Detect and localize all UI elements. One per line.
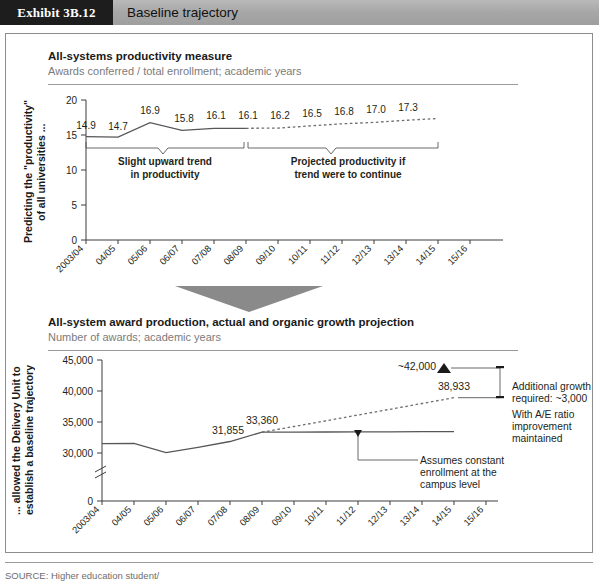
enrollment-marker-icon	[354, 430, 362, 437]
x-tick: 06/07	[173, 504, 197, 528]
downward-arrow-icon	[175, 286, 323, 312]
productivity-data-labels: 14.9 14.7 16.9 15.8 16.1 16.1 16.2 16.5 …	[76, 102, 418, 132]
bottom-panel-side-caption: ... allowed the Delivery Unit to establi…	[10, 358, 36, 523]
annotation-constant-enrollment: Assumes constant enrollment at the campu…	[420, 455, 520, 491]
bracket-tick	[496, 396, 504, 398]
x-tick: 04/05	[93, 243, 117, 267]
top-panel-rule	[48, 84, 518, 85]
x-tick: 2003/04	[70, 504, 102, 536]
x-tick: 09/10	[253, 243, 277, 267]
annotation-ae-ratio: With A/E ratio improvement maintained	[512, 409, 598, 445]
award-production-chart-svg: 45,000 40,000 35,000 30,000 0 31,855 33,…	[48, 356, 548, 546]
bottom-panel-rule	[48, 350, 518, 351]
target-marker-triangle-icon	[437, 363, 451, 373]
top-panel-subtitle: Awards conferred / total enrollment; aca…	[48, 64, 518, 78]
exhibit-header: Exhibit 3B.12 Baseline trajectory	[0, 0, 599, 25]
y-tick-bottom-30000: 30,000	[62, 448, 93, 459]
data-label: 38,933	[438, 380, 470, 392]
x-tick: 06/07	[157, 243, 181, 267]
top-panel-side-caption: Predicting the "productivity" of all uni…	[22, 92, 48, 252]
bottom-panel-heading: All-system award production, actual and …	[48, 315, 518, 344]
x-tick: 12/13	[349, 243, 373, 267]
data-label: 17.0	[366, 104, 386, 115]
data-label: 14.7	[108, 121, 128, 132]
x-tick: 08/09	[237, 504, 261, 528]
x-tick: 2003/04	[54, 243, 86, 275]
data-label: 16.2	[270, 110, 290, 121]
y-tick-top-20: 20	[66, 95, 78, 106]
series-baseline-awards	[102, 432, 454, 453]
x-tick: 07/08	[189, 243, 213, 267]
x-tick-labels-top: 2003/04 04/05 05/06 06/07 07/08 08/09 09…	[54, 243, 470, 275]
top-annotation-right: Projected productivity if trend were to …	[268, 156, 428, 181]
x-tick: 13/14	[381, 243, 405, 267]
exhibit-title: Baseline trajectory	[113, 0, 238, 25]
data-label: 16.9	[140, 105, 160, 116]
x-axis-top	[86, 240, 503, 244]
x-tick: 05/06	[141, 504, 165, 528]
x-tick: 04/05	[109, 504, 133, 528]
award-production-chart: 45,000 40,000 35,000 30,000 0 31,855 33,…	[48, 356, 548, 546]
x-tick: 14/15	[429, 504, 453, 528]
top-panel-heading: All-systems productivity measure Awards …	[48, 49, 518, 78]
annotation-bracket-right	[248, 142, 438, 154]
x-tick: 05/06	[125, 243, 149, 267]
x-tick: 11/12	[334, 504, 358, 528]
x-tick: 12/13	[365, 504, 389, 528]
data-label: 16.5	[302, 108, 322, 119]
data-label: 15.8	[174, 113, 194, 124]
y-tick-bottom-45000: 45,000	[62, 355, 93, 366]
productivity-chart: 20 15 10 5 0 14.9 14.7 16.9 15.8 16.1 16…	[48, 92, 518, 287]
x-tick: 11/12	[318, 243, 342, 267]
y-axis-bottom: 45,000 40,000 35,000 30,000 0	[62, 355, 106, 507]
x-tick: 13/14	[397, 504, 421, 528]
top-panel-title: All-systems productivity measure	[48, 49, 518, 63]
x-tick: 15/16	[445, 243, 469, 267]
y-tick-bottom-40000: 40,000	[62, 386, 93, 397]
data-label: 17.3	[398, 102, 418, 113]
annotation-bracket-left	[86, 142, 244, 154]
x-tick: 15/16	[461, 504, 485, 528]
x-axis-bottom	[102, 501, 498, 505]
productivity-chart-svg: 20 15 10 5 0 14.9 14.7 16.9 15.8 16.1 16…	[48, 92, 518, 287]
y-tick-top-5: 5	[71, 200, 77, 211]
data-label-target: ~42,000	[398, 360, 436, 372]
x-tick: 14/15	[413, 243, 437, 267]
y-axis-top: 20 15 10 5 0	[66, 95, 86, 246]
series-organic-growth	[262, 398, 454, 433]
data-label: 31,855	[212, 424, 244, 436]
bracket-tick	[496, 366, 504, 368]
bottom-panel-title: All-system award production, actual and …	[48, 315, 518, 329]
source-note: SOURCE: Higher education student/	[5, 570, 565, 582]
data-label: 33,360	[246, 414, 278, 426]
data-label: 16.1	[206, 110, 226, 121]
bottom-panel-subtitle: Number of awards; academic years	[48, 330, 518, 344]
y-tick-top-15: 15	[66, 130, 78, 141]
x-tick: 10/11	[302, 504, 326, 528]
annotation-additional-growth: Additional growth required: ~3,000	[512, 381, 598, 405]
x-tick: 09/10	[269, 504, 293, 528]
data-label: 16.1	[238, 110, 258, 121]
x-tick-labels-bottom: 2003/04 04/05 05/06 06/07 07/08 08/09 09…	[70, 504, 486, 536]
leader-line-enrollment	[358, 432, 418, 460]
x-tick: 10/11	[286, 243, 310, 267]
y-tick-top-10: 10	[66, 165, 78, 176]
y-tick-bottom-35000: 35,000	[62, 417, 93, 428]
source-divider	[5, 562, 593, 563]
data-label: 14.9	[76, 120, 96, 131]
data-label: 16.8	[334, 106, 354, 117]
x-tick: 08/09	[221, 243, 245, 267]
exhibit-tag: Exhibit 3B.12	[0, 0, 113, 25]
top-annotation-left: Slight upward trend in productivity	[100, 156, 230, 181]
x-tick: 07/08	[205, 504, 229, 528]
